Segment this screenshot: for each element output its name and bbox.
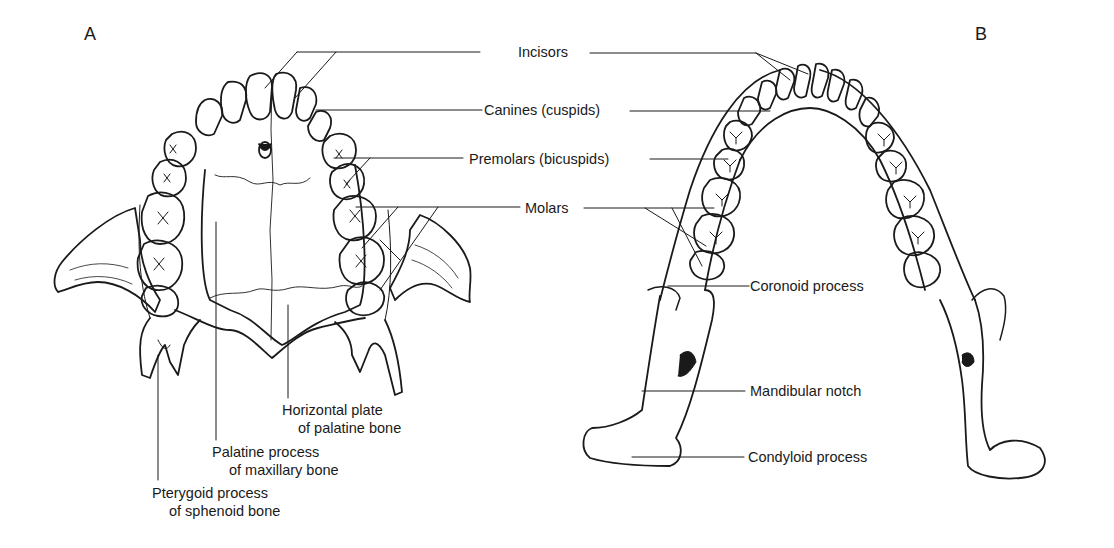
label-incisors: Incisors (518, 43, 568, 61)
panel-letter-a: A (84, 24, 96, 44)
label-horizontal-plate-line2: of palatine bone (282, 419, 401, 437)
label-horizontal-plate: Horizontal plate of palatine bone (282, 401, 401, 437)
label-premolars: Premolars (bicuspids) (469, 150, 609, 168)
leader-lines (158, 52, 808, 480)
label-palatine-process: Palatine process of maxillary bone (212, 443, 339, 479)
label-palatine-process-line2: of maxillary bone (212, 461, 339, 479)
dental-arches-illustration (0, 0, 1114, 548)
label-canines: Canines (cuspids) (484, 101, 600, 119)
label-molars: Molars (525, 199, 569, 217)
panel-letter-b: B (975, 24, 987, 44)
mandible-drawing (583, 64, 1044, 479)
label-palatine-process-line1: Palatine process (212, 443, 339, 461)
label-mandibular-notch: Mandibular notch (750, 382, 861, 400)
label-coronoid-process: Coronoid process (750, 277, 864, 295)
label-pterygoid-process-line1: Pterygoid process (152, 484, 280, 502)
label-pterygoid-process: Pterygoid process of sphenoid bone (152, 484, 280, 520)
label-horizontal-plate-line1: Horizontal plate (282, 401, 401, 419)
label-condyloid-process: Condyloid process (748, 448, 867, 466)
maxilla-drawing (55, 73, 471, 395)
label-pterygoid-process-line2: of sphenoid bone (152, 502, 280, 520)
